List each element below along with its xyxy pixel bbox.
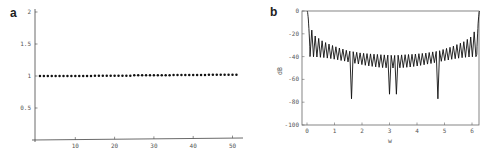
x-tick-label: 4 [415,127,419,134]
data-points-a [39,73,238,77]
x-tick-label: 20 [111,142,119,149]
x-ticks-a: 1020304050 [72,136,237,149]
data-point [188,74,191,77]
data-point [90,75,93,78]
x-tick-label: 5 [443,127,447,134]
data-point [113,74,116,77]
x-tick-label: 3 [388,127,392,134]
data-point [168,74,171,77]
data-point [172,74,175,77]
data-point [39,75,42,78]
data-point [157,74,160,77]
y-ticks-b: 0-20-40-60-80-100 [285,7,305,128]
y-tick-label: 1 [27,72,31,79]
y-tick-label: 2 [27,8,31,15]
data-point [184,74,187,77]
data-point [216,73,219,76]
data-point [62,75,64,78]
data-point [192,74,195,77]
figure: a 0.511.52 1020304050 b 0-20-40-60-80-10… [0,0,495,155]
x-tick-label: 0 [305,127,309,134]
data-point [161,74,164,77]
y-tick-label: -60 [288,75,299,82]
y-axis-label-b: dB [276,67,284,75]
y-tick-label: -100 [285,121,300,128]
data-point [105,74,108,77]
data-point [164,74,167,77]
panel-label-a: a [10,6,17,20]
data-point [129,74,132,77]
panel-b: b 0-20-40-60-80-100 0123456 dB w [270,5,480,145]
data-point [74,75,77,78]
data-point [145,74,148,77]
panel-a: a 0.511.52 1020304050 [10,6,243,149]
data-point [200,74,203,77]
x-axis-label-b: w [388,137,392,145]
x-tick-label: 40 [190,142,198,149]
data-point [66,75,69,78]
data-point [204,74,207,77]
data-point [219,73,222,76]
data-point [117,74,120,77]
data-point [82,75,85,78]
data-point [196,74,199,77]
data-point [43,75,46,78]
data-point [109,74,112,77]
data-point [50,75,53,78]
data-point [149,74,152,77]
data-point [180,74,183,77]
x-tick-label: 50 [229,142,237,149]
y-tick-label: -80 [288,98,299,105]
data-point [125,74,128,77]
data-point [223,73,226,76]
data-point [137,74,140,77]
data-point [235,73,238,76]
data-point [141,74,144,77]
data-point [176,74,179,77]
x-tick-label: 6 [470,127,474,134]
data-point [227,73,230,76]
x-tick-label: 30 [150,142,158,149]
data-point [70,75,73,78]
y-tick-label: 1.5 [20,40,31,47]
panel-label-b: b [270,5,277,19]
data-point [94,74,97,77]
data-point [102,74,105,77]
data-point [98,74,101,77]
data-point [58,75,61,78]
data-point [47,75,50,78]
data-point [231,73,234,76]
y-tick-label: 0.5 [20,104,31,111]
data-point [86,75,89,78]
y-tick-label: -40 [288,53,299,60]
x-ticks-b: 0123456 [305,123,474,135]
data-point [208,73,211,76]
y-tick-label: 0 [295,7,299,14]
data-point [212,73,215,76]
x-tick-label: 2 [360,127,364,134]
x-tick-label: 10 [72,142,80,149]
data-point [121,74,124,77]
x-axis-a [32,138,243,140]
x-tick-label: 1 [333,127,337,134]
y-tick-label: -20 [288,30,299,37]
data-point [78,75,81,78]
magnitude-response-curve [307,11,480,99]
data-point [153,74,156,77]
data-point [54,75,57,78]
data-point [133,74,136,77]
